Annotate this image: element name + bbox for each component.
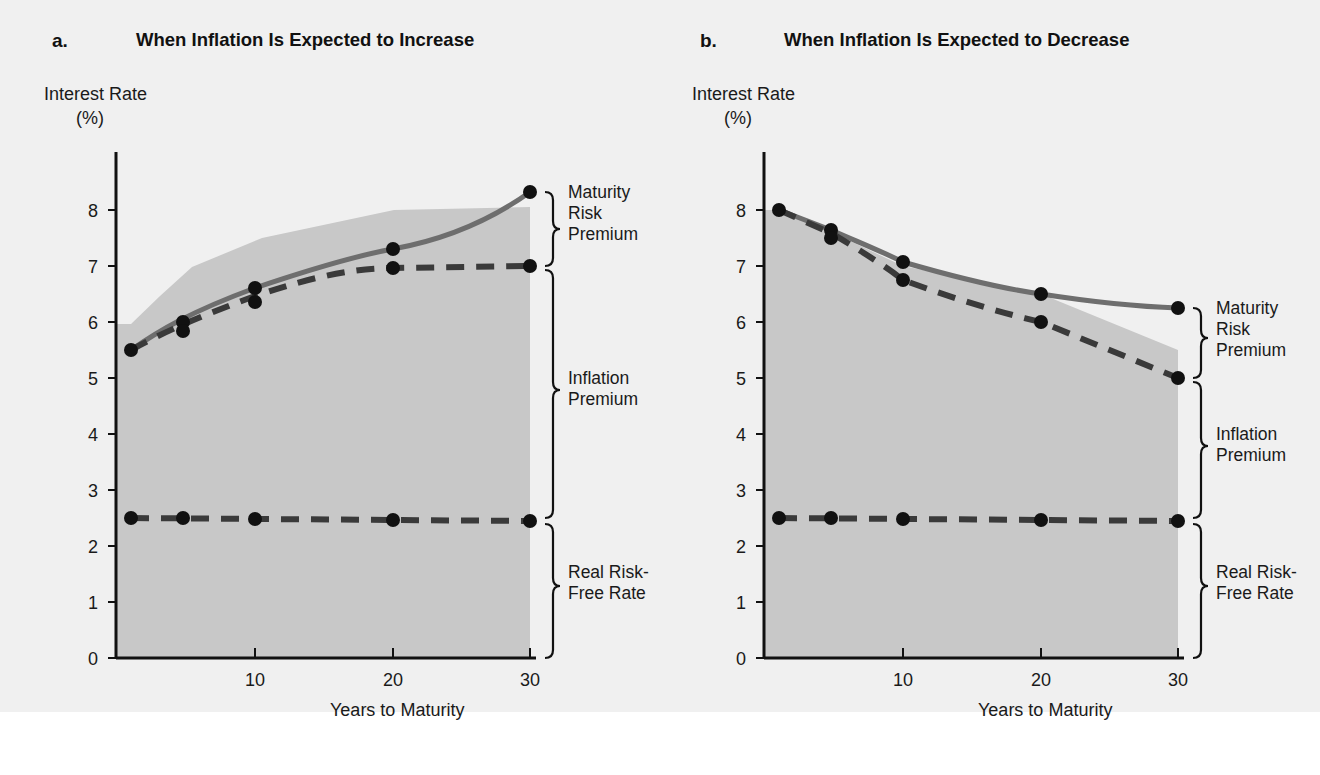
panel-b-ytick-8: 8 <box>736 201 746 221</box>
panel-b-brackets <box>1193 308 1208 658</box>
chart-panel-b: b. When Inflation Is Expected to Decreas… <box>648 0 1308 712</box>
panel-b-ytick-2: 2 <box>736 537 746 557</box>
panel-a-maturity-line-3: Premium <box>568 224 638 245</box>
panel-a-inflation-line-2: Premium <box>568 389 638 410</box>
panel-a-xtick-20: 20 <box>383 670 403 690</box>
panel-b-maturity-line-2: Risk <box>1216 319 1286 340</box>
panel-a-ytick-1: 1 <box>88 593 98 613</box>
panel-b-plot: 0 1 2 3 4 5 6 7 8 10 20 30 <box>648 0 1308 712</box>
panel-a-ytick-7: 7 <box>88 257 98 277</box>
panel-b-realrate-line-1: Real Risk- <box>1216 562 1297 583</box>
panel-a-realrate-line-1: Real Risk- <box>568 562 649 583</box>
panel-a-bracket-realrate <box>545 524 560 658</box>
panel-b-ytick-0: 0 <box>736 649 746 669</box>
panel-b-maturity-line-3: Premium <box>1216 340 1286 361</box>
panel-a-y-tick-labels: 0 1 2 3 4 5 6 7 8 <box>88 201 98 669</box>
panel-b-ytick-1: 1 <box>736 593 746 613</box>
panel-a-real-rate-area <box>116 520 530 658</box>
panel-a-label-inflation-premium: Inflation Premium <box>568 368 638 410</box>
panel-a-brackets <box>545 192 560 658</box>
panel-b-bracket-inflation <box>1193 382 1208 518</box>
panel-b-y-tick-labels: 0 1 2 3 4 5 6 7 8 <box>736 201 746 669</box>
panel-b-label-inflation-premium: Inflation Premium <box>1216 424 1286 466</box>
panel-b-xtick-30: 30 <box>1168 670 1188 690</box>
panel-b-inflation-line-2: Premium <box>1216 445 1286 466</box>
panel-a-realrate-line-2: Free Rate <box>568 583 649 604</box>
panel-b-label-real-risk-free-rate: Real Risk- Free Rate <box>1216 562 1297 604</box>
panel-b-bracket-maturity <box>1193 308 1208 378</box>
panel-b-ytick-5: 5 <box>736 369 746 389</box>
panel-b-inflation-line-1: Inflation <box>1216 424 1286 445</box>
panel-a-ytick-4: 4 <box>88 425 98 445</box>
panel-b-xtick-20: 20 <box>1031 670 1051 690</box>
panel-b-ytick-4: 4 <box>736 425 746 445</box>
panel-b-bracket-realrate <box>1193 524 1208 658</box>
panel-a-label-real-risk-free-rate: Real Risk- Free Rate <box>568 562 649 604</box>
panel-a-plot: 0 1 2 3 4 5 6 7 8 10 20 30 <box>0 0 660 712</box>
panel-a-maturity-line-1: Maturity <box>568 182 638 203</box>
panel-b-maturity-line-1: Maturity <box>1216 298 1286 319</box>
panel-b-ytick-6: 6 <box>736 313 746 333</box>
panel-a-bracket-maturity <box>545 192 560 266</box>
panel-b-ytick-3: 3 <box>736 481 746 501</box>
panel-b-realrate-line-2: Free Rate <box>1216 583 1297 604</box>
figure-page: a. When Inflation Is Expected to Increas… <box>0 0 1320 775</box>
panel-a-xtick-10: 10 <box>245 670 265 690</box>
panel-a-ytick-5: 5 <box>88 369 98 389</box>
panel-b-label-maturity-risk-premium: Maturity Risk Premium <box>1216 298 1286 361</box>
panel-b-ytick-7: 7 <box>736 257 746 277</box>
panel-b-real-rate-area <box>764 520 1178 658</box>
panel-a-ytick-8: 8 <box>88 201 98 221</box>
panel-a-ytick-6: 6 <box>88 313 98 333</box>
panel-a-x-tick-labels: 10 20 30 <box>245 670 540 690</box>
panel-a-ytick-2: 2 <box>88 537 98 557</box>
panel-b-xtick-10: 10 <box>893 670 913 690</box>
panel-a-label-maturity-risk-premium: Maturity Risk Premium <box>568 182 638 245</box>
panel-a-maturity-line-2: Risk <box>568 203 638 224</box>
panel-a-ytick-0: 0 <box>88 649 98 669</box>
panel-a-xtick-30: 30 <box>520 670 540 690</box>
panel-a-inflation-line-1: Inflation <box>568 368 638 389</box>
panel-a-bracket-inflation <box>545 270 560 518</box>
chart-panel-a: a. When Inflation Is Expected to Increas… <box>0 0 660 712</box>
panel-b-x-tick-labels: 10 20 30 <box>893 670 1188 690</box>
panel-a-ytick-3: 3 <box>88 481 98 501</box>
